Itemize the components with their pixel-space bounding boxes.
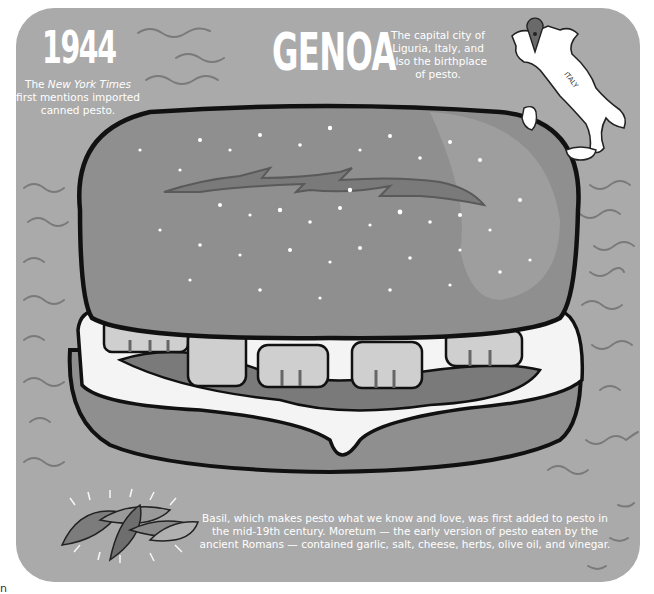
city-note: The capital city of Liguria, Italy, and …	[386, 29, 490, 81]
year-note-publication: New York Times	[48, 78, 131, 90]
basil-leaves-icon	[62, 489, 198, 563]
year-note-suffix: first mentions imported canned pesto.	[16, 91, 140, 116]
basil-history-note: Basil, which makes pesto what we know an…	[196, 512, 614, 551]
corner-glyph: n	[0, 582, 7, 594]
city-heading: GENOA	[272, 22, 396, 82]
sandwich-icon	[70, 106, 583, 472]
year-note: The New York Times first mentions import…	[14, 78, 142, 117]
year-note-prefix: The	[25, 78, 48, 90]
year-heading: 1944	[42, 22, 114, 73]
